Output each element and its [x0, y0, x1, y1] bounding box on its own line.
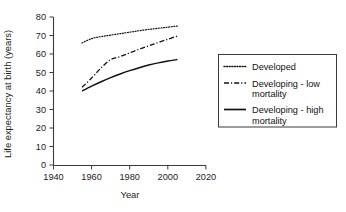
- chart-figure: Life expectancy at birth (years) Year 80…: [0, 0, 346, 212]
- x-tick-label: 2020: [196, 172, 216, 182]
- y-tick-label: 10: [36, 142, 46, 152]
- y-tick-label: 40: [36, 86, 46, 96]
- y-tick-label: 70: [36, 31, 46, 41]
- x-tick-label: 1960: [81, 172, 101, 182]
- x-axis-title: Year: [121, 189, 140, 200]
- y-tick-label: 50: [36, 68, 46, 78]
- x-tick-label: 1940: [43, 172, 63, 182]
- y-tick-label: 20: [36, 123, 46, 133]
- y-axis-title: Life expectancy at birth (years): [2, 30, 13, 158]
- legend-label-cont: mortality: [252, 89, 287, 99]
- legend-label: Developed: [252, 62, 296, 72]
- x-tick-label: 2000: [158, 172, 178, 182]
- chart-legend: Developed Developing - low mortality Dev…: [219, 55, 337, 128]
- legend-label: Developing - high: [252, 105, 324, 115]
- y-tick-label: 30: [36, 105, 46, 115]
- life-expectancy-line-chart: Life expectancy at birth (years) Year 80…: [0, 0, 346, 212]
- y-tick-label: 60: [36, 49, 46, 59]
- x-tick-label: 1980: [119, 172, 139, 182]
- legend-label-cont: mortality: [252, 116, 287, 126]
- legend-label: Developing - low: [252, 79, 320, 89]
- y-tick-label: 0: [41, 160, 46, 170]
- y-tick-label: 80: [36, 12, 46, 22]
